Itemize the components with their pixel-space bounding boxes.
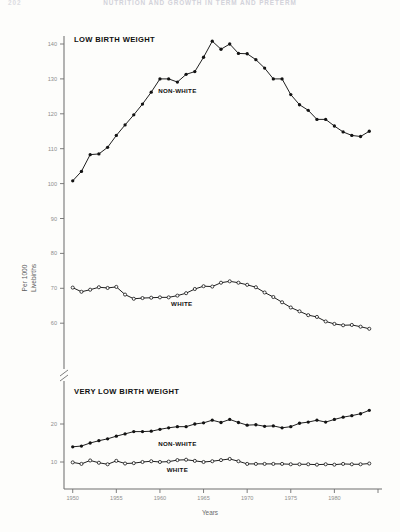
y-tick-label-upper: 120: [48, 111, 57, 117]
data-point: [272, 295, 275, 298]
data-point: [202, 56, 205, 59]
data-point: [97, 286, 100, 289]
data-point: [315, 463, 318, 466]
y-axis-label-line2: Livebirths: [30, 263, 37, 292]
data-point: [341, 130, 344, 133]
data-point: [289, 463, 292, 466]
data-point: [246, 423, 249, 426]
data-point: [237, 52, 240, 55]
series-label-lower-non-white: NON-WHITE: [158, 440, 196, 447]
data-point: [150, 430, 153, 433]
data-point: [202, 460, 205, 463]
data-point: [80, 462, 83, 465]
data-point: [254, 58, 257, 61]
data-point: [237, 421, 240, 424]
data-point: [228, 457, 231, 460]
data-point: [71, 286, 74, 289]
data-point: [176, 80, 179, 83]
data-point: [298, 463, 301, 466]
data-point: [132, 462, 135, 465]
data-point: [228, 280, 231, 283]
data-point: [237, 281, 240, 284]
data-point: [97, 461, 100, 464]
data-point: [219, 281, 222, 284]
data-point: [315, 419, 318, 422]
data-point: [71, 179, 74, 182]
data-point: [185, 292, 188, 295]
data-point: [368, 462, 371, 465]
data-point: [298, 103, 301, 106]
data-point: [123, 123, 126, 126]
data-point: [263, 425, 266, 428]
data-point: [211, 40, 214, 43]
data-point: [324, 320, 327, 323]
running-head: NUTRITION AND GROWTH IN TERM AND PRETERM: [0, 0, 400, 10]
x-tick-label: 1960: [154, 495, 166, 501]
figure-page: 202 NUTRITION AND GROWTH IN TERM AND PRE…: [0, 0, 400, 532]
data-point: [167, 296, 170, 299]
data-point: [307, 109, 310, 112]
series-label-upper-non-white: NON-WHITE: [158, 87, 196, 94]
data-point: [272, 77, 275, 80]
data-point: [237, 460, 240, 463]
data-point: [167, 426, 170, 429]
data-point: [368, 327, 371, 330]
x-tick-label: 1980: [328, 495, 340, 501]
data-point: [89, 288, 92, 291]
y-tick-label-upper: 140: [48, 41, 57, 47]
data-point: [193, 422, 196, 425]
y-tick-label-upper: 130: [48, 76, 57, 82]
data-point: [228, 418, 231, 421]
data-point: [132, 430, 135, 433]
data-point: [176, 459, 179, 462]
data-point: [307, 420, 310, 423]
series-label-lower-white: WHITE: [167, 466, 188, 473]
data-point: [350, 134, 353, 137]
data-point: [359, 463, 362, 466]
data-point: [176, 425, 179, 428]
data-point: [280, 426, 283, 429]
data-point: [89, 459, 92, 462]
data-point: [167, 77, 170, 80]
data-point: [211, 285, 214, 288]
data-point: [228, 42, 231, 45]
panel-title-lower: VERY LOW BIRTH WEIGHT: [74, 387, 179, 396]
data-point: [298, 310, 301, 313]
data-point: [193, 287, 196, 290]
x-tick-label: 1975: [285, 495, 297, 501]
data-point: [106, 463, 109, 466]
data-point: [141, 102, 144, 105]
data-point: [132, 297, 135, 300]
x-tick-label: 1970: [241, 495, 253, 501]
data-point: [150, 460, 153, 463]
data-point: [289, 425, 292, 428]
chart-axes: 1401301201101009080706020101950195519601…: [48, 36, 382, 501]
data-point: [315, 315, 318, 318]
data-point: [350, 463, 353, 466]
data-point: [202, 285, 205, 288]
y-axis-label-line1: Per 1000: [21, 264, 28, 291]
data-point: [289, 93, 292, 96]
data-point: [246, 52, 249, 55]
data-point: [158, 460, 161, 463]
y-tick-label-upper: 70: [51, 285, 57, 291]
data-point: [158, 428, 161, 431]
data-point: [315, 118, 318, 121]
data-point: [281, 462, 284, 465]
data-point: [115, 435, 118, 438]
data-point: [246, 462, 249, 465]
data-point: [342, 324, 345, 327]
data-point: [124, 462, 127, 465]
data-point: [115, 459, 118, 462]
data-point: [106, 286, 109, 289]
data-point: [80, 170, 83, 173]
series-line-lower-non-white: [73, 410, 370, 446]
data-point: [150, 91, 153, 94]
data-point: [272, 462, 275, 465]
data-point: [333, 418, 336, 421]
data-point: [71, 445, 74, 448]
data-point: [263, 462, 266, 465]
data-point: [246, 283, 249, 286]
data-point: [167, 460, 170, 463]
data-point: [184, 425, 187, 428]
